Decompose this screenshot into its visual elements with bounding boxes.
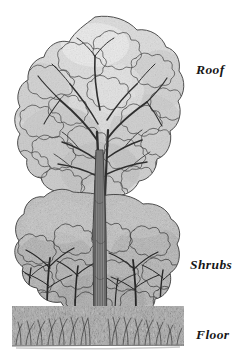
layer-label-shrubs: Shrubs: [190, 258, 232, 272]
layer-label-roof: Roof: [196, 63, 225, 77]
forest-floor-layer: [12, 306, 184, 349]
shrub-understory-layer: [0, 185, 251, 326]
ground-shadow: [16, 347, 180, 349]
forest-profile-drawing: [0, 0, 251, 363]
shrub-shading: [0, 185, 251, 326]
layer-label-floor: Floor: [196, 328, 230, 342]
forest-strata-illustration: Roof Shrubs Floor: [0, 0, 251, 363]
